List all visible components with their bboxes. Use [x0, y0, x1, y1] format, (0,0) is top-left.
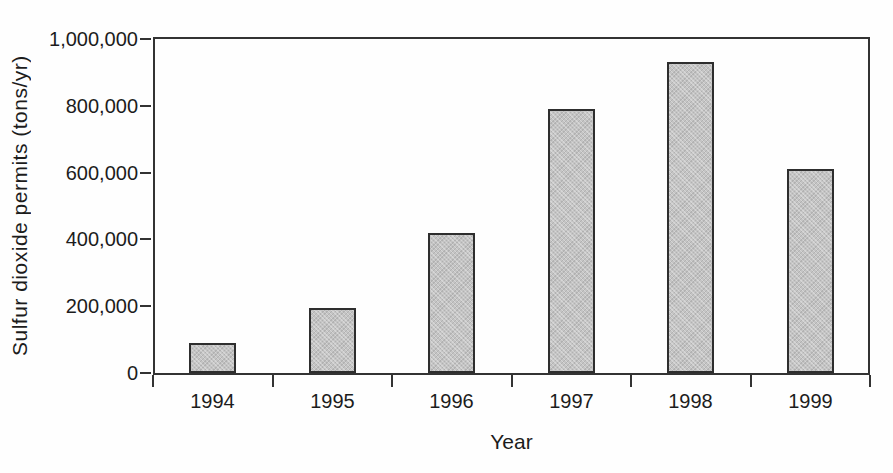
x-tick-0	[152, 375, 154, 387]
x-axis-title: Year	[153, 430, 870, 454]
x-tick-label-1997: 1997	[512, 390, 631, 413]
bar-1995	[309, 308, 356, 373]
x-tick-4	[630, 375, 632, 387]
y-tick-label-3: 600,000	[18, 163, 138, 183]
x-tick-label-1999: 1999	[751, 390, 870, 413]
x-tick-2	[391, 375, 393, 387]
bar-1994	[189, 343, 236, 373]
bar-1998	[667, 62, 714, 373]
x-tick-label-1995: 1995	[273, 390, 392, 413]
y-tick-4	[140, 105, 151, 107]
x-tick-label-1996: 1996	[392, 390, 511, 413]
y-tick-5	[140, 38, 151, 40]
y-tick-label-0: 0	[18, 363, 138, 383]
y-tick-3	[140, 172, 151, 174]
x-tick-label-1994: 1994	[153, 390, 272, 413]
x-tick-label-1998: 1998	[631, 390, 750, 413]
y-tick-2	[140, 238, 151, 240]
bar-chart-figure: Sulfur dioxide permits (tons/yr) 0200,00…	[0, 0, 893, 473]
x-tick-6	[869, 375, 871, 387]
y-tick-label-2: 400,000	[18, 229, 138, 249]
x-tick-5	[750, 375, 752, 387]
plot-area	[153, 37, 870, 375]
bar-1999	[787, 169, 834, 373]
bar-1996	[428, 233, 475, 373]
x-tick-1	[272, 375, 274, 387]
x-tick-3	[511, 375, 513, 387]
y-tick-0	[140, 372, 151, 374]
y-tick-label-1: 200,000	[18, 296, 138, 316]
y-axis-title: Sulfur dioxide permits (tons/yr)	[8, 37, 32, 375]
y-tick-label-4: 800,000	[18, 96, 138, 116]
y-tick-label-5: 1,000,000	[18, 29, 138, 49]
bar-1997	[548, 109, 595, 373]
y-tick-1	[140, 305, 151, 307]
